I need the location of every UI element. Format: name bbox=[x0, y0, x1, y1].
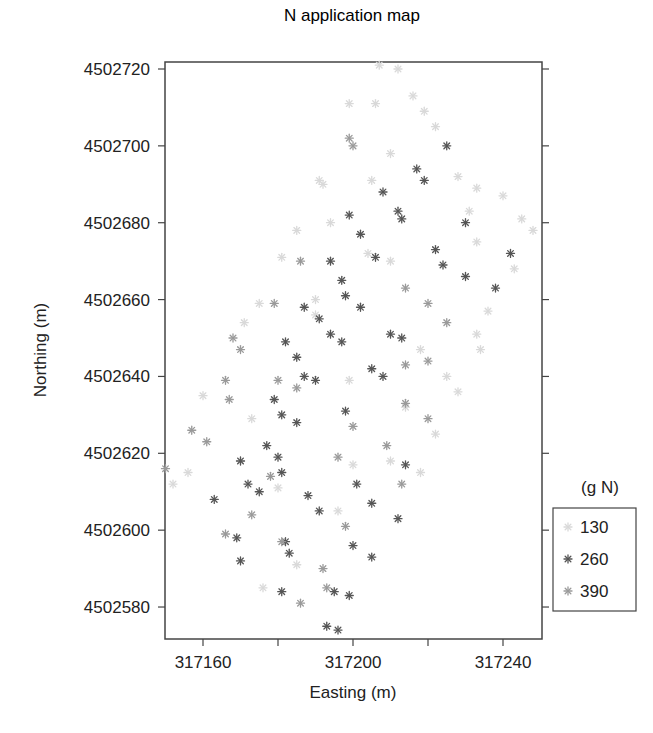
asterisk-marker bbox=[248, 415, 256, 423]
asterisk-marker bbox=[278, 253, 286, 261]
series-130 bbox=[169, 61, 537, 592]
asterisk-marker bbox=[368, 553, 376, 561]
asterisk-marker bbox=[312, 296, 320, 304]
asterisk-marker bbox=[267, 472, 275, 480]
series-390 bbox=[162, 134, 451, 607]
legend-label-260: 260 bbox=[580, 550, 608, 569]
asterisk-marker bbox=[225, 395, 233, 403]
asterisk-marker bbox=[323, 584, 331, 592]
asterisk-marker bbox=[420, 107, 428, 115]
asterisk-marker bbox=[300, 303, 308, 311]
asterisk-marker bbox=[387, 257, 395, 265]
asterisk-marker bbox=[375, 61, 383, 69]
x-axis: 317160317200317240 bbox=[175, 639, 532, 672]
asterisk-marker bbox=[387, 150, 395, 158]
asterisk-marker bbox=[477, 346, 485, 354]
asterisk-marker bbox=[334, 626, 342, 634]
n-application-map-chart: N application map 317160317200317240 450… bbox=[0, 0, 653, 733]
asterisk-marker bbox=[237, 457, 245, 465]
asterisk-marker bbox=[402, 461, 410, 469]
asterisk-marker bbox=[518, 215, 526, 223]
asterisk-marker bbox=[255, 488, 263, 496]
y-tick-label: 4502600 bbox=[84, 521, 150, 540]
asterisk-marker bbox=[270, 395, 278, 403]
y-axis: 4502580450260045026204502640450266045026… bbox=[84, 60, 165, 617]
y-tick-label: 4502680 bbox=[84, 214, 150, 233]
x-tick-label: 317240 bbox=[475, 653, 532, 672]
asterisk-marker bbox=[282, 338, 290, 346]
asterisk-marker bbox=[274, 376, 282, 384]
asterisk-marker bbox=[312, 376, 320, 384]
asterisk-marker bbox=[342, 522, 350, 530]
x-tick-label: 317200 bbox=[325, 653, 382, 672]
asterisk-marker bbox=[473, 238, 481, 246]
asterisk-marker bbox=[210, 495, 218, 503]
asterisk-marker bbox=[368, 176, 376, 184]
asterisk-marker bbox=[278, 588, 286, 596]
asterisk-marker bbox=[499, 192, 507, 200]
asterisk-marker bbox=[454, 173, 462, 181]
asterisk-marker bbox=[293, 384, 301, 392]
asterisk-marker bbox=[315, 315, 323, 323]
asterisk-marker bbox=[300, 372, 308, 380]
asterisk-marker bbox=[387, 457, 395, 465]
asterisk-marker bbox=[345, 134, 353, 142]
asterisk-marker bbox=[327, 257, 335, 265]
asterisk-marker bbox=[297, 599, 305, 607]
asterisk-marker bbox=[402, 399, 410, 407]
asterisk-marker bbox=[564, 523, 572, 531]
asterisk-marker bbox=[345, 211, 353, 219]
asterisk-marker bbox=[327, 330, 335, 338]
asterisk-marker bbox=[473, 184, 481, 192]
y-tick-label: 4502580 bbox=[84, 598, 150, 617]
asterisk-marker bbox=[255, 299, 263, 307]
asterisk-marker bbox=[394, 65, 402, 73]
asterisk-marker bbox=[315, 507, 323, 515]
asterisk-marker bbox=[387, 330, 395, 338]
legend-label-130: 130 bbox=[580, 518, 608, 537]
y-axis-right-ticks bbox=[542, 69, 549, 607]
asterisk-marker bbox=[293, 353, 301, 361]
asterisk-marker bbox=[398, 480, 406, 488]
asterisk-marker bbox=[372, 100, 380, 108]
y-tick-label: 4502720 bbox=[84, 60, 150, 79]
asterisk-marker bbox=[420, 176, 428, 184]
asterisk-marker bbox=[424, 299, 432, 307]
asterisk-marker bbox=[229, 334, 237, 342]
asterisk-marker bbox=[334, 453, 342, 461]
asterisk-marker bbox=[564, 587, 572, 595]
asterisk-marker bbox=[417, 469, 425, 477]
y-tick-label: 4502640 bbox=[84, 367, 150, 386]
asterisk-marker bbox=[398, 215, 406, 223]
asterisk-marker bbox=[274, 453, 282, 461]
asterisk-marker bbox=[443, 142, 451, 150]
asterisk-marker bbox=[402, 284, 410, 292]
asterisk-marker bbox=[349, 542, 357, 550]
asterisk-marker bbox=[338, 338, 346, 346]
asterisk-marker bbox=[259, 584, 267, 592]
asterisk-marker bbox=[462, 273, 470, 281]
asterisk-marker bbox=[319, 180, 327, 188]
asterisk-marker bbox=[323, 622, 331, 630]
asterisk-marker bbox=[334, 507, 342, 515]
asterisk-marker bbox=[379, 188, 387, 196]
asterisk-marker bbox=[233, 534, 241, 542]
asterisk-marker bbox=[169, 480, 177, 488]
x-axis-label: Easting (m) bbox=[310, 683, 397, 702]
asterisk-marker bbox=[248, 511, 256, 519]
asterisk-marker bbox=[357, 303, 365, 311]
asterisk-marker bbox=[278, 411, 286, 419]
asterisk-marker bbox=[278, 469, 286, 477]
asterisk-marker bbox=[424, 415, 432, 423]
asterisk-marker bbox=[394, 207, 402, 215]
asterisk-marker bbox=[364, 249, 372, 257]
asterisk-marker bbox=[237, 557, 245, 565]
asterisk-marker bbox=[199, 392, 207, 400]
asterisk-marker bbox=[345, 376, 353, 384]
asterisk-marker bbox=[327, 219, 335, 227]
asterisk-marker bbox=[394, 515, 402, 523]
x-tick-label: 317160 bbox=[175, 653, 232, 672]
chart-title: N application map bbox=[284, 6, 420, 25]
asterisk-marker bbox=[349, 461, 357, 469]
asterisk-marker bbox=[353, 480, 361, 488]
